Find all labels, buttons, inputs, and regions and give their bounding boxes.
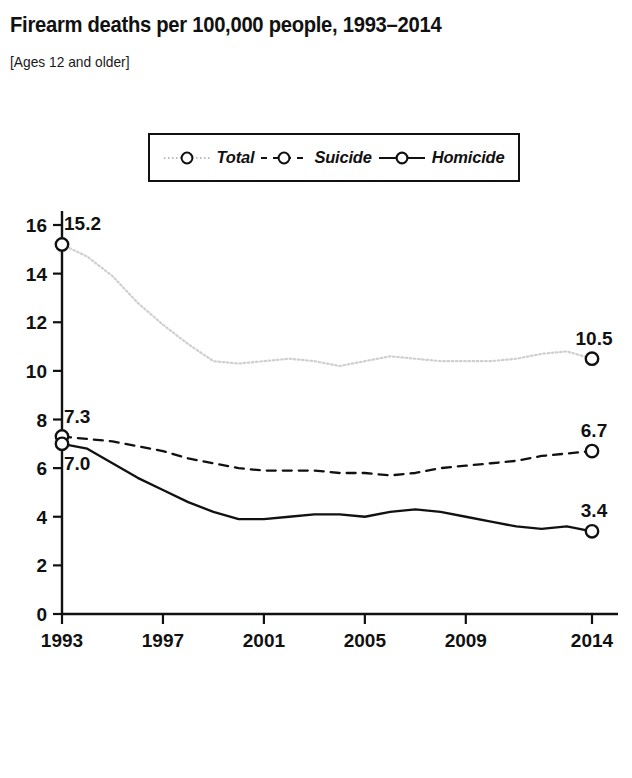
legend-label-total: Total	[217, 148, 255, 167]
series-line-homicide	[62, 444, 592, 532]
source-note-clip: SOURCE: Jens Manuel Krogstad, “Deaths by…	[0, 660, 632, 778]
data-point-label: 7.0	[64, 453, 90, 474]
data-point-marker-total	[56, 238, 68, 250]
x-axis-tick-label: 1997	[142, 630, 184, 651]
data-point-marker-suicide	[586, 445, 598, 457]
figure-subtitle: [Ages 12 and older]	[10, 54, 129, 70]
legend-marker-suicide-icon	[261, 149, 307, 167]
data-point-marker-total	[586, 353, 598, 365]
y-axis-tick-label: 6	[36, 458, 47, 479]
legend-label-homicide: Homicide	[432, 148, 505, 167]
y-axis-tick-label: 16	[26, 215, 47, 236]
chart-legend: Total Suicide Homicide	[148, 133, 520, 182]
x-axis-tick-label: 2001	[243, 630, 286, 651]
x-axis-tick-label: 2014	[571, 630, 614, 651]
data-point-label: 10.5	[576, 328, 613, 349]
data-point-label: 7.3	[64, 406, 90, 427]
x-axis-tick-label: 2005	[344, 630, 387, 651]
y-axis-tick-label: 14	[26, 264, 48, 285]
legend-label-suicide: Suicide	[314, 148, 371, 167]
legend-marker-homicide-icon	[379, 149, 425, 167]
y-axis-tick-label: 0	[36, 604, 47, 625]
legend-item-homicide[interactable]: Homicide	[379, 148, 505, 167]
data-point-label: 3.4	[581, 500, 608, 521]
x-axis-tick-label: 1993	[41, 630, 83, 651]
x-axis-tick-label: 2009	[445, 630, 487, 651]
page-title: Firearm deaths per 100,000 people, 1993–…	[10, 13, 441, 38]
series-line-total	[62, 244, 592, 366]
y-axis-tick-label: 8	[36, 410, 47, 431]
data-point-marker-homicide	[586, 525, 598, 537]
data-point-marker-homicide	[56, 438, 68, 450]
legend-item-suicide[interactable]: Suicide	[261, 148, 371, 167]
y-axis-tick-label: 4	[36, 507, 47, 528]
y-axis-tick-label: 10	[26, 361, 47, 382]
series-line-suicide	[62, 437, 592, 476]
chart-plot-area: 024681012141619931997200120052009201415.…	[0, 186, 632, 656]
y-axis-tick-label: 2	[36, 555, 47, 576]
line-chart: 024681012141619931997200120052009201415.…	[0, 186, 632, 656]
legend-item-total[interactable]: Total	[164, 148, 255, 167]
y-axis-tick-label: 12	[26, 312, 47, 333]
data-point-label: 15.2	[64, 213, 101, 234]
data-point-label: 6.7	[581, 420, 607, 441]
legend-marker-total-icon	[164, 149, 210, 167]
